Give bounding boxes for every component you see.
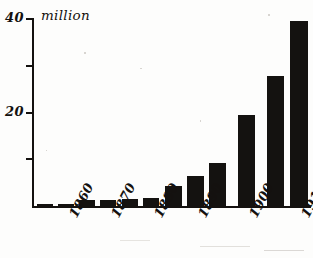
scan-speckle [140,68,142,69]
scan-speckle [200,246,250,247]
scan-speckle [200,120,201,122]
bars-layer [0,0,313,206]
scan-speckle [84,52,86,54]
bar-1910 [290,21,308,206]
bar-1855 [37,204,53,206]
scan-speckle [120,240,150,241]
scan-speckle [264,250,304,251]
scan-speckle [268,14,270,16]
bar-chart-figure: 40 20 million 1860 1870 1880 1890 1900 1… [0,0,313,258]
bar-1900 [238,115,255,206]
scan-speckle [46,150,47,151]
plot-area: 40 20 million 1860 1870 1880 1890 1900 1… [0,0,313,258]
